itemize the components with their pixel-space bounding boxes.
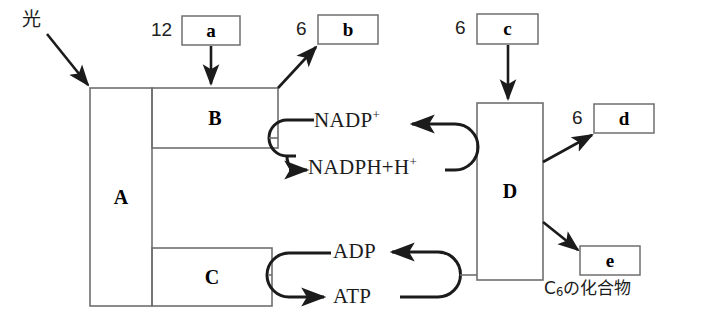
process-box-B-label: B [208,107,221,130]
light-label: 光 [22,10,41,29]
coefficient-d: 6 [572,108,583,127]
coefficient-c: 6 [455,18,466,37]
arrow-D-to-d [543,135,592,162]
c6-subscript: 6 [556,285,563,299]
light-arrow [47,34,88,85]
nadp-plus-text: NADP [314,108,372,132]
nadp-cycle-lower-left-bend [287,156,292,169]
adp-label: ADP [333,241,376,262]
substance-box-e[interactable]: e [580,246,640,275]
atp-cycle-right-arc [400,252,461,297]
substance-box-d[interactable]: d [594,104,654,133]
process-box-C[interactable]: C [152,248,272,306]
coefficient-b: 6 [296,19,307,38]
process-box-A[interactable]: A [90,88,152,306]
process-box-A-label: A [114,186,128,209]
substance-box-c[interactable]: c [477,14,538,44]
substance-box-c-label: c [503,18,511,40]
substance-box-d-label: d [619,108,630,130]
coefficient-a: 12 [151,20,172,39]
process-box-B[interactable]: B [152,88,278,148]
c6-prefix: C [544,278,556,298]
substance-box-a-label: a [206,20,216,42]
arrow-D-to-e [543,222,578,250]
c6-suffix: の化合物 [563,278,631,298]
nadph-text: NADPH+H [308,155,409,179]
nadp-plus-label: NADP+ [314,110,380,131]
process-box-D[interactable]: D [477,103,543,280]
nadp-cycle-right-arc [443,124,478,170]
process-box-C-label: C [205,266,219,289]
substance-box-a[interactable]: a [182,16,240,45]
atp-label: ATP [333,286,371,307]
nadph-label: NADPH+H+ [308,157,417,178]
substance-box-e-label: e [606,250,614,272]
diagram-canvas: 光 A B C D 12 a 6 b 6 c 6 d e C6の化合物 NADP… [0,0,701,325]
nadp-plus-superscript: + [372,107,380,122]
process-box-D-label: D [503,180,517,203]
arrow-B-to-b [278,47,316,88]
substance-box-b-label: b [343,19,354,41]
substance-box-b[interactable]: b [318,15,378,44]
nadph-superscript: + [409,154,417,169]
c6-compound-annotation: C6の化合物 [544,280,631,297]
